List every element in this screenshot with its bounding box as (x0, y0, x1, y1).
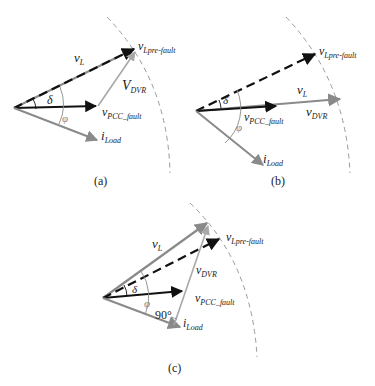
label-vL: vL (152, 236, 163, 253)
label-vLpre-fault: vLpre-fault (319, 44, 357, 60)
label-vLpre-fault: vLpre-fault (226, 230, 264, 246)
caption-b: (b) (271, 174, 285, 188)
label-vLpre-fault: vLpre-fault (138, 39, 176, 55)
label-phi: φ (144, 297, 150, 309)
vector-vL (103, 223, 207, 298)
panel-b: vL vLpre-fault vDVR vPCC_fault iLoad δ φ… (196, 17, 357, 188)
delta-angle-arc (124, 285, 127, 296)
label-vPCC-fault: vPCC_fault (102, 105, 142, 121)
label-iLoad: iLoad (183, 316, 204, 332)
label-iLoad: iLoad (263, 151, 284, 168)
vector-vPCC-fault (14, 106, 96, 108)
label-vPCC-fault: vPCC_fault (244, 110, 284, 126)
label-90-degrees: 90° (155, 308, 172, 322)
label-vDVR: vDVR (196, 263, 217, 279)
panel-c: vL vLpre-fault vDVR vPCC_fault iLoad δ φ… (103, 203, 264, 375)
label-vPCC-fault: vPCC_fault (195, 291, 235, 307)
phasor-diagram-figure: vL vLpre-fault VDVR vPCC_fault iLoad δ φ… (0, 0, 375, 386)
label-iLoad: iLoad (101, 128, 122, 145)
caption-a: (a) (94, 174, 107, 188)
panel-a: vL vLpre-fault VDVR vPCC_fault iLoad δ φ… (14, 17, 176, 188)
label-phi: φ (62, 112, 68, 124)
label-vDVR: VDVR (122, 78, 146, 95)
label-vL: vL (74, 50, 85, 67)
label-vL: vL (297, 82, 308, 99)
voltage-magnitude-arc (286, 17, 350, 173)
label-phi: φ (236, 121, 242, 133)
label-delta: δ (223, 94, 229, 106)
caption-c: (c) (168, 361, 181, 375)
label-vDVR: vDVR (306, 104, 327, 121)
delta-angle-arc (219, 100, 221, 108)
label-delta: δ (132, 283, 138, 295)
voltage-magnitude-arc (190, 203, 257, 357)
vector-iLoad (14, 108, 97, 140)
label-delta: δ (47, 93, 53, 107)
vector-vPCC-fault (103, 291, 182, 298)
